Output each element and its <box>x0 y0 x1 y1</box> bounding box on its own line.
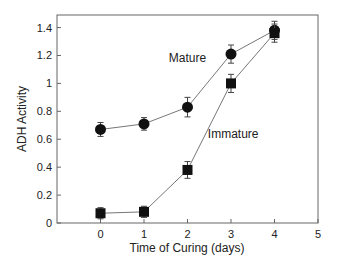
x-axis-title: Time of Curing (days) <box>130 241 245 255</box>
data-point-immature <box>270 28 280 38</box>
y-axis-title: ADH Activity <box>15 86 29 152</box>
y-tick-label: 1 <box>46 77 52 89</box>
plot-frame <box>57 15 318 223</box>
y-tick-label: 0.6 <box>37 133 52 145</box>
data-point-immature <box>183 165 193 175</box>
x-tick-label: 5 <box>315 228 321 240</box>
x-tick-label: 1 <box>141 228 147 240</box>
data-point-mature <box>139 118 150 129</box>
chart: 00.20.40.60.811.21.4012345 MatureImmatur… <box>0 0 337 269</box>
data-point-immature <box>226 78 236 88</box>
x-tick-label: 0 <box>97 228 103 240</box>
y-tick-label: 0.8 <box>37 105 52 117</box>
y-tick-label: 0.2 <box>37 189 52 201</box>
data-point-immature <box>139 207 149 217</box>
x-tick-label: 2 <box>184 228 190 240</box>
annotations: MatureImmature <box>169 51 259 140</box>
data-point-mature <box>226 49 237 60</box>
x-tick-label: 4 <box>271 228 277 240</box>
data-point-mature <box>95 124 106 135</box>
y-tick-label: 1.4 <box>37 22 52 34</box>
data-point-mature <box>182 102 193 113</box>
annotation-immature: Immature <box>208 127 259 141</box>
y-tick-label: 0.4 <box>37 161 52 173</box>
annotation-mature: Mature <box>169 51 207 65</box>
data-point-immature <box>96 208 106 218</box>
y-tick-label: 1.2 <box>37 49 52 61</box>
x-tick-label: 3 <box>228 228 234 240</box>
y-tick-label: 0 <box>46 217 52 229</box>
